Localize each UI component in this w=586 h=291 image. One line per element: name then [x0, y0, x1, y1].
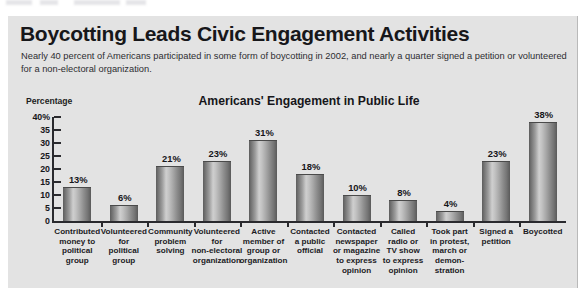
source-line-bleed	[8, 284, 578, 288]
y-axis-tick-label: 10	[22, 190, 50, 200]
category-label-line: newspaper	[335, 237, 377, 246]
category-label-line: official	[297, 246, 323, 255]
category-label-line: organization	[193, 256, 241, 265]
category-label-line: for	[118, 237, 129, 246]
infographic-panel: Boycotting Leads Civic Engagement Activi…	[8, 16, 578, 288]
category-label-line: money to	[59, 237, 95, 246]
category-label-line: solving	[156, 246, 184, 255]
category-label-line: Contributed	[54, 227, 100, 236]
y-axis-tick-label: 25	[22, 151, 50, 161]
category-label-line: Volunteered	[101, 227, 147, 236]
x-axis-category-label: Took partin protest,march ordemon-strati…	[423, 227, 476, 276]
category-label-line: march or	[432, 246, 467, 255]
category-label-line: Volunteered	[194, 227, 240, 236]
category-label-line: problem	[154, 237, 186, 246]
bar-value-label: 23%	[209, 148, 228, 159]
category-label-line: for	[212, 237, 223, 246]
bar-value-label: 4%	[444, 198, 458, 209]
page-top-bleed	[0, 0, 586, 14]
category-label-line: radio or	[388, 237, 418, 246]
bar	[296, 174, 324, 221]
bar-value-label: 38%	[534, 109, 553, 120]
x-axis-category-label: Activemember ofgroup ororganization	[237, 227, 290, 266]
bar	[529, 122, 557, 221]
bar	[343, 195, 371, 221]
y-axis-tick-label: 20	[22, 164, 50, 174]
y-axis-tick-label: 5	[22, 203, 50, 213]
y-axis-tick	[54, 142, 61, 144]
category-label-line: petition	[482, 237, 511, 246]
bar-chart-plot: 40%35302520151050 13%6%21%23%31%18%10%8%…	[8, 16, 578, 288]
y-axis-tick	[54, 155, 61, 157]
x-axis-category-label: Contactednewspaperor magazineto expresso…	[330, 227, 383, 276]
category-label-line: non-electoral	[191, 246, 242, 255]
bar	[482, 161, 510, 221]
x-axis-category-label: Communityproblemsolving	[144, 227, 197, 256]
bar	[203, 161, 231, 221]
category-label-line: group or	[247, 246, 280, 255]
category-label-line: Contacted	[290, 227, 330, 236]
category-label-line: stration	[435, 266, 465, 275]
bar-value-label: 8%	[397, 187, 411, 198]
y-axis-tick-label: 35	[22, 125, 50, 135]
y-axis-tick	[54, 194, 61, 196]
bar-value-label: 18%	[302, 161, 321, 172]
y-axis-tick	[54, 168, 61, 170]
x-axis-category-label: Boycotted	[516, 227, 569, 237]
category-label-line: organization	[239, 256, 287, 265]
bar-value-label: 6%	[118, 192, 132, 203]
y-axis-tick	[54, 207, 61, 209]
category-label-line: Active	[251, 227, 275, 236]
x-axis-category-label: Volunteeredforpoliticalgroup	[97, 227, 150, 266]
category-label-line: TV show	[386, 246, 419, 255]
category-label-line: opinion	[342, 266, 371, 275]
category-label-line: opinion	[388, 266, 417, 275]
bar-value-label: 23%	[488, 148, 507, 159]
category-label-line: demon-	[435, 256, 464, 265]
category-label-line: to express	[383, 256, 424, 265]
category-label-line: Contacted	[337, 227, 377, 236]
x-axis-baseline	[52, 221, 566, 223]
y-axis-tick-label: 40%	[22, 112, 50, 122]
category-label-line: Community	[148, 227, 193, 236]
category-label-line: or magazine	[333, 246, 380, 255]
x-axis-category-label: Volunteeredfornon-electoralorganization	[190, 227, 243, 266]
bar-value-label: 13%	[69, 174, 88, 185]
category-label-line: group	[66, 256, 89, 265]
x-axis-category-label: Contacteda publicofficial	[284, 227, 337, 256]
y-axis-tick	[54, 181, 61, 183]
bar	[249, 140, 277, 221]
category-label-line: political	[109, 246, 140, 255]
category-label-line: Signed a	[479, 227, 513, 236]
bar	[156, 166, 184, 221]
bar-value-label: 21%	[162, 153, 181, 164]
y-axis-tick	[54, 129, 61, 131]
y-axis-tick	[54, 116, 61, 118]
category-label-line: to express	[336, 256, 377, 265]
category-label-line: a public	[295, 237, 326, 246]
x-axis-category-label: Signed apetition	[470, 227, 523, 246]
x-axis-category-label: Calledradio orTV showto expressopinion	[377, 227, 430, 276]
bar-value-label: 10%	[348, 182, 367, 193]
x-axis-category-label: Contributedmoney topoliticalgroup	[51, 227, 104, 266]
y-axis-tick-label: 0	[22, 216, 50, 226]
category-label-line: member of	[243, 237, 284, 246]
bar	[436, 211, 464, 221]
y-axis-tick-label: 30	[22, 138, 50, 148]
category-label-line: Took part	[431, 227, 467, 236]
category-label-line: Called	[391, 227, 415, 236]
category-label-line: Boycotted	[523, 227, 563, 236]
bar	[110, 205, 138, 221]
bar-value-label: 31%	[255, 127, 274, 138]
category-label-line: political	[62, 246, 93, 255]
category-label-line: group	[112, 256, 135, 265]
y-axis-tick-label: 15	[22, 177, 50, 187]
bar	[389, 200, 417, 221]
bar	[63, 187, 91, 221]
category-label-line: in protest,	[430, 237, 469, 246]
